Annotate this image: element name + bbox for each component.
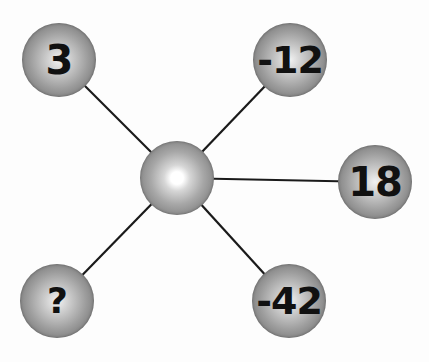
node-bottom-right: -42 [252,264,326,338]
center-hub-node [140,141,214,215]
node-value-label: -12 [257,41,323,79]
node-value-label: -42 [256,282,322,320]
question-mark-icon: ? [47,283,67,319]
node-value-label: 18 [348,162,402,202]
node-top-right: -12 [253,23,327,97]
puzzle-diagram: 3 -12 18 -42 ? [0,0,429,362]
node-top-left: 3 [22,23,96,97]
node-right: 18 [338,145,412,219]
node-bottom-left-unknown: ? [20,264,94,338]
node-value-label: 3 [46,40,73,80]
